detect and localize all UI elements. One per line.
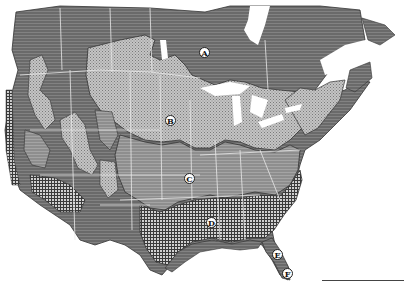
newfoundland (362, 18, 395, 45)
region-label-e: E (272, 249, 283, 260)
nova-scotia (346, 62, 372, 92)
region-label-b: B (165, 115, 176, 126)
region-label-f: F (282, 268, 293, 279)
region-label-d: D (206, 217, 217, 228)
scale-bar (322, 280, 404, 281)
vegetation-map (0, 0, 407, 282)
region-label-a: A (199, 47, 210, 58)
region-label-c: C (184, 173, 195, 184)
